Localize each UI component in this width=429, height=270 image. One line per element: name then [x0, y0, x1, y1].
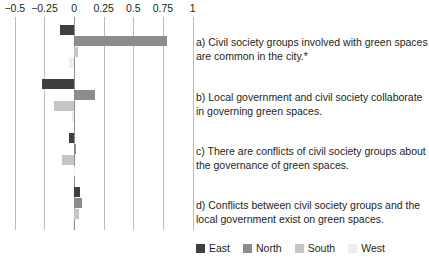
statement-b: b) Local government and civil society co…: [196, 91, 429, 118]
legend-label: North: [256, 242, 282, 254]
axis-tick-label: −0.5: [4, 2, 25, 15]
bar-group: [0, 25, 200, 69]
bar: [74, 90, 95, 100]
legend-swatch-icon: [196, 244, 205, 253]
legend-label: South: [308, 242, 335, 254]
bar: [74, 144, 76, 154]
diverging-bar-chart: −0.5−0.2500.250.50.751 a) Civil society …: [0, 0, 429, 270]
bar: [74, 198, 82, 208]
bar: [72, 112, 74, 122]
bar: [74, 187, 80, 197]
legend-swatch-icon: [295, 244, 304, 253]
plot-area: [0, 17, 200, 230]
axis-tick-label: 0: [71, 2, 77, 15]
bar: [54, 101, 74, 111]
axis-tick-label: 0.75: [153, 2, 173, 15]
bar-group: [0, 187, 200, 231]
bar: [62, 155, 74, 165]
axis-tick-label: −0.25: [31, 2, 58, 15]
legend-item-south[interactable]: South: [295, 242, 335, 254]
statement-a: a) Civil society groups involved with gr…: [196, 36, 429, 63]
axis-tick-label: 0.5: [126, 2, 141, 15]
axis-tick-label: 0.25: [93, 2, 113, 15]
chart-legend: EastNorthSouthWest: [196, 240, 429, 256]
x-axis-tick-labels: −0.5−0.2500.250.50.751: [0, 2, 200, 18]
bar: [74, 166, 75, 176]
bar: [69, 133, 74, 143]
bar: [73, 220, 74, 230]
bar: [74, 36, 166, 46]
axis-tick-label: 1: [190, 2, 196, 15]
bar-group: [0, 133, 200, 177]
legend-label: West: [361, 242, 385, 254]
legend-swatch-icon: [348, 244, 357, 253]
bar: [74, 47, 78, 57]
bar: [69, 58, 74, 68]
bar-group: [0, 79, 200, 123]
bar: [60, 25, 74, 35]
statement-c: c) There are conflicts of civil society …: [196, 145, 429, 172]
statement-d: d) Conflicts between civil society group…: [196, 199, 429, 226]
bar: [42, 79, 74, 89]
legend-item-north[interactable]: North: [243, 242, 282, 254]
legend-label: East: [209, 242, 230, 254]
legend-item-east[interactable]: East: [196, 242, 230, 254]
bar: [74, 209, 79, 219]
legend-swatch-icon: [243, 244, 252, 253]
legend-item-west[interactable]: West: [348, 242, 385, 254]
